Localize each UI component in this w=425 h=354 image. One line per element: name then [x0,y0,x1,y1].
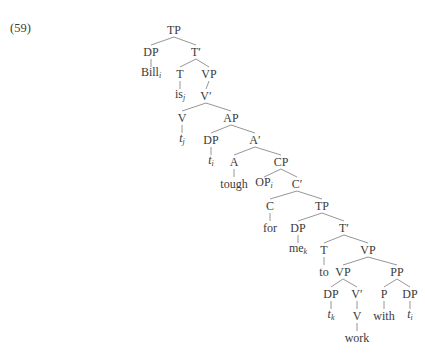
tree-node: DP [402,288,417,300]
tree-node-label: DP [290,221,305,235]
tree-node-label: V′ [351,287,362,301]
tree-node: V′ [200,90,211,102]
tree-branch [343,257,368,265]
tree-branch [151,37,174,45]
tree-node: A [230,156,239,168]
tree-node: mek [289,242,307,258]
tree-branch [281,169,297,177]
tree-node-label: PP [390,265,403,279]
tree-node: ti [407,308,413,324]
tree-branch [368,257,397,265]
tree-node-index: k [331,313,335,322]
tree-node-label: with [373,309,394,323]
tree-branch [180,59,196,67]
tree-node: T′ [191,46,201,58]
tree-branch [343,279,357,287]
tree-branch [211,125,231,133]
tree-node: T′ [339,222,349,234]
tree-branch [270,191,297,199]
tree-node-label: to [319,265,328,279]
tree-node: ti [208,154,214,170]
tree-node-label: DP [323,287,338,301]
tree-node-label: me [289,241,304,255]
tree-node: for [263,222,277,234]
tree-node-label: C′ [292,177,303,191]
tree-branch [231,125,255,133]
tree-node-label: T [176,67,183,81]
tree-node: tough [220,178,247,190]
tree-node: with [373,310,394,322]
tree-branch [384,279,397,287]
tree-node: tj [179,132,185,148]
tree-node: OPi [255,176,273,192]
tree-node: P [381,288,388,300]
tree-node-label: T [320,243,327,257]
tree-node: DP [203,134,218,146]
tree-branch [255,147,281,155]
tree-node-label: OP [255,175,270,189]
tree-node: C′ [292,178,303,190]
tree-node: VP [360,244,375,256]
tree-node: T [320,244,327,256]
tree-branch [174,37,196,45]
tree-node-label: T′ [191,45,201,59]
tree-node-label: VP [360,243,375,257]
tree-node-label: work [345,331,370,345]
tree-node-label: P [381,287,388,301]
tree-node-index: j [183,93,185,102]
tree-node-label: TP [167,23,181,37]
tree-node-label: for [263,221,277,235]
tree-node-label: DP [402,287,417,301]
tree-node: isj [175,88,185,104]
tree-node-label: tough [220,177,247,191]
tree-node: VP [335,266,350,278]
tree-node-label: V [353,309,362,323]
tree-branch [206,103,231,111]
tree-node: C [266,200,274,212]
tree-node-label: T′ [339,221,349,235]
tree-node: DP [323,288,338,300]
tree-node: V [353,310,362,322]
tree-node-label: CP [274,155,289,169]
tree-branch [206,81,209,89]
tree-node: VP [201,68,216,80]
tree-node: TP [167,24,181,36]
tree-node: A′ [249,134,260,146]
tree-node: CP [274,156,289,168]
tree-node: to [319,266,328,278]
tree-node: Billi [141,66,161,82]
tree-node-label: A′ [249,133,260,147]
tree-node: TP [315,200,329,212]
tree-node-index: k [304,247,308,256]
tree-node-label: is [175,87,183,101]
tree-branch [182,103,206,111]
tree-node-label: V [178,111,187,125]
tree-node: DP [143,46,158,58]
tree-node: PP [390,266,403,278]
tree-node-label: VP [335,265,350,279]
tree-branch [196,59,209,67]
tree-node: AP [223,112,238,124]
tree-node-label: AP [223,111,238,125]
tree-branch [344,235,368,243]
tree-node-index: i [411,313,413,322]
tree-node-label: A [230,155,239,169]
tree-node-label: VP [201,67,216,81]
tree-branch [298,213,322,221]
tree-branch [331,279,343,287]
tree-node-label: DP [203,133,218,147]
tree-branch [397,279,410,287]
tree-branch [234,147,255,155]
tree-node-index: i [271,181,273,190]
tree-node-label: V′ [200,89,211,103]
tree-node: T [176,68,183,80]
tree-node-index: j [183,137,185,146]
tree-branch [322,213,344,221]
tree-branch [297,191,322,199]
tree-node-label: DP [143,45,158,59]
tree-node: V [178,112,187,124]
tree-node: work [345,332,370,344]
tree-node: tk [328,308,335,324]
tree-node: V′ [351,288,362,300]
tree-node-index: i [159,71,161,80]
